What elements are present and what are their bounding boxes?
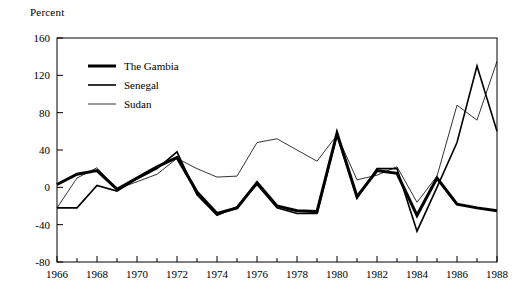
x-axis-tick-label: 1980 [326, 268, 349, 280]
legend-label: Sudan [124, 98, 152, 110]
legend-label: Senegal [124, 79, 159, 91]
axis-layer [57, 38, 497, 262]
x-axis-tick-label: 1982 [366, 268, 388, 280]
y-axis-tick-label: 160 [34, 32, 51, 44]
series-layer [57, 61, 497, 231]
x-axis-tick-label: 1984 [406, 268, 429, 280]
x-axis-tick-label: 1988 [486, 268, 509, 280]
x-axis-tick-label: 1986 [446, 268, 469, 280]
series-line-the-gambia [57, 133, 497, 215]
y-axis-tick-label: -80 [35, 256, 50, 268]
x-axis-tick-label: 1966 [46, 268, 69, 280]
x-axis-tick-label: 1978 [286, 268, 309, 280]
y-axis-tick-label: 80 [39, 107, 51, 119]
tick-label-layer: 16012080400-40-8019661968197019721974197… [34, 32, 509, 280]
line-chart-svg: 16012080400-40-8019661968197019721974197… [0, 0, 515, 293]
x-axis-tick-label: 1968 [86, 268, 109, 280]
y-axis-tick-label: 120 [34, 69, 51, 81]
plot-frame [57, 38, 497, 262]
chart-container: Percent 16012080400-40-80196619681970197… [0, 0, 515, 293]
y-axis-tick-label: 40 [39, 144, 51, 156]
x-axis-tick-label: 1972 [166, 268, 188, 280]
y-axis-tick-label: -40 [35, 219, 50, 231]
x-axis-tick-label: 1974 [206, 268, 229, 280]
x-axis-tick-label: 1976 [246, 268, 269, 280]
legend-label: The Gambia [124, 60, 179, 72]
y-axis-tick-label: 0 [45, 181, 51, 193]
chart-legend: The GambiaSenegalSudan [88, 60, 179, 110]
x-axis-tick-label: 1970 [126, 268, 149, 280]
